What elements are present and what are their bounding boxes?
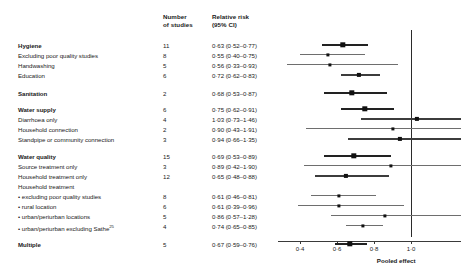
x-axis-tick-label: 0·4 bbox=[296, 246, 305, 252]
row-number-of-studies: 11 bbox=[163, 41, 169, 50]
forest-plot-area: 0·40·60·81·0 Pooled effect bbox=[256, 30, 461, 269]
row-relative-risk: 0·69 (0·53–0·89) bbox=[212, 152, 257, 161]
point-estimate-marker bbox=[384, 214, 387, 217]
row-number-of-studies: 6 bbox=[163, 105, 166, 114]
row-number-of-studies: 2 bbox=[163, 125, 166, 134]
point-estimate-marker bbox=[361, 224, 364, 227]
confidence-interval-bar bbox=[324, 155, 391, 157]
row-label: Household treatment bbox=[18, 182, 74, 191]
row-relative-risk: 0·72 (0·62–0·83) bbox=[212, 71, 257, 80]
point-estimate-marker bbox=[337, 194, 340, 197]
row-label: Standpipe or community connection bbox=[18, 135, 114, 144]
point-estimate-marker bbox=[351, 153, 356, 158]
row-number-of-studies: 12 bbox=[163, 172, 170, 181]
row-label: • urban/periurban excluding Sathe25 bbox=[18, 222, 114, 233]
row-label: • rural location bbox=[18, 202, 56, 211]
point-estimate-marker bbox=[337, 204, 340, 207]
row-number-of-studies: 15 bbox=[163, 152, 170, 161]
row-relative-risk: 0·90 (0·43–1·91) bbox=[212, 125, 257, 134]
forest-plot-figure: Number of studies Relative risk (95% CI)… bbox=[0, 0, 461, 269]
reference-superscript: 25 bbox=[109, 224, 114, 229]
confidence-interval-bar bbox=[311, 195, 376, 196]
point-estimate-marker bbox=[340, 42, 345, 47]
header-rr-line1: Relative risk bbox=[212, 13, 249, 21]
x-axis-line bbox=[278, 241, 461, 242]
point-estimate-marker bbox=[328, 63, 331, 66]
row-relative-risk: 0·86 (0·57–1·28) bbox=[212, 212, 257, 221]
row-relative-risk: 0·63 (0·52–0·77) bbox=[212, 41, 257, 50]
confidence-interval-bar bbox=[306, 128, 461, 129]
point-estimate-marker bbox=[326, 53, 329, 56]
row-relative-risk: 0·94 (0·66–1·35) bbox=[212, 135, 257, 144]
row-number-of-studies: 4 bbox=[163, 222, 166, 231]
confidence-interval-bar bbox=[298, 205, 403, 206]
row-label: Water supply bbox=[18, 105, 56, 114]
row-number-of-studies: 3 bbox=[163, 162, 166, 171]
row-label: Household treatment only bbox=[18, 172, 87, 181]
column-header-relative-risk: Relative risk (95% CI) bbox=[212, 13, 249, 29]
point-estimate-marker bbox=[362, 106, 367, 111]
confidence-interval-bar bbox=[361, 118, 461, 120]
row-number-of-studies: 8 bbox=[163, 192, 166, 201]
point-estimate-marker bbox=[357, 73, 361, 77]
x-axis-tick bbox=[374, 241, 375, 244]
row-label: Handwashing bbox=[18, 61, 55, 70]
confidence-interval-bar bbox=[348, 138, 461, 140]
point-estimate-marker bbox=[398, 137, 402, 141]
row-relative-risk: 0·75 (0·62–0·91) bbox=[212, 105, 257, 114]
row-label: Household connection bbox=[18, 125, 78, 134]
row-number-of-studies: 5 bbox=[163, 240, 166, 249]
point-estimate-marker bbox=[347, 241, 352, 246]
row-number-of-studies: 2 bbox=[163, 89, 166, 98]
row-label: • urban/periurban locations bbox=[18, 212, 90, 221]
header-rr-line2: (95% CI) bbox=[212, 21, 249, 29]
row-number-of-studies: 3 bbox=[163, 135, 166, 144]
row-relative-risk: 0·56 (0·33–0·93) bbox=[212, 61, 257, 70]
row-relative-risk: 0·68 (0·53–0·87) bbox=[212, 89, 257, 98]
point-estimate-marker bbox=[414, 117, 418, 121]
x-axis-tick-label: 1·0 bbox=[407, 246, 416, 252]
x-axis-tick-label: 0·6 bbox=[333, 246, 342, 252]
row-number-of-studies: 5 bbox=[163, 212, 166, 221]
point-estimate-marker bbox=[349, 90, 354, 95]
column-header-number-of-studies: Number of studies bbox=[163, 13, 193, 29]
point-estimate-marker bbox=[391, 127, 394, 130]
confidence-interval-bar bbox=[346, 225, 383, 226]
row-label: Hygiene bbox=[18, 41, 42, 50]
row-relative-risk: 0·61 (0·46–0·81) bbox=[212, 192, 257, 201]
confidence-interval-bar bbox=[304, 165, 461, 166]
header-number-line1: Number bbox=[163, 13, 193, 21]
row-relative-risk: 0·74 (0·65–0·85) bbox=[212, 222, 257, 231]
row-number-of-studies: 5 bbox=[163, 61, 166, 70]
null-reference-line bbox=[411, 30, 412, 237]
row-number-of-studies: 6 bbox=[163, 202, 166, 211]
row-relative-risk: 0·67 (0·59–0·76) bbox=[212, 240, 257, 249]
x-axis-tick bbox=[411, 241, 412, 244]
confidence-interval-bar bbox=[300, 54, 365, 55]
row-relative-risk: 0·61 (0·39–0·96) bbox=[212, 202, 257, 211]
confidence-interval-bar bbox=[341, 108, 395, 110]
header-number-line2: of studies bbox=[163, 21, 193, 29]
row-relative-risk: 1·03 (0·73–1·46) bbox=[212, 115, 257, 124]
row-label: Diarrhoea only bbox=[18, 115, 57, 124]
row-number-of-studies: 6 bbox=[163, 71, 166, 80]
confidence-interval-bar bbox=[324, 92, 387, 94]
confidence-interval-bar bbox=[287, 64, 398, 65]
row-relative-risk: 0·65 (0·48–0·88) bbox=[212, 172, 257, 181]
confidence-interval-bar bbox=[315, 175, 389, 177]
row-number-of-studies: 4 bbox=[163, 115, 166, 124]
row-relative-risk: 0·89 (0·42–1·90) bbox=[212, 162, 257, 171]
row-label: Education bbox=[18, 71, 45, 80]
row-label: Multiple bbox=[18, 240, 41, 249]
row-number-of-studies: 8 bbox=[163, 51, 166, 60]
x-axis-tick bbox=[300, 241, 301, 244]
row-label: Source treatment only bbox=[18, 162, 77, 171]
point-estimate-marker bbox=[344, 174, 348, 178]
point-estimate-marker bbox=[389, 164, 392, 167]
confidence-interval-bar bbox=[331, 215, 461, 216]
row-label: Sanitation bbox=[18, 89, 47, 98]
row-label: Water quality bbox=[18, 152, 56, 161]
x-axis-tick-label: 0·8 bbox=[370, 246, 379, 252]
row-relative-risk: 0·55 (0·40–0·75) bbox=[212, 51, 257, 60]
row-label: • excluding poor quality studies bbox=[18, 192, 101, 201]
